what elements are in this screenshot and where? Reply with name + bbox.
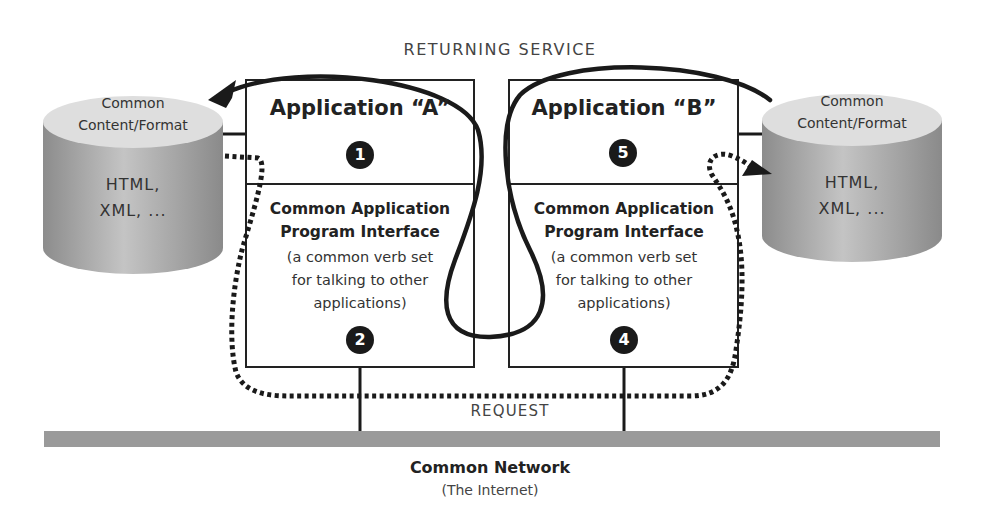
left-store-body-line2: XML, ...: [43, 198, 223, 224]
left-store-top-line2: Content/Format: [43, 114, 223, 136]
app-a-api-desc-line1: (a common verb set: [246, 246, 474, 269]
app-a-title: Application “A”: [246, 96, 474, 120]
app-b-api-desc-line2: for talking to other: [510, 269, 738, 292]
app-b-api-title-line1: Common Application: [510, 198, 738, 221]
app-b-title: Application “B”: [510, 96, 738, 120]
app-b-api-title-line2: Program Interface: [510, 221, 738, 244]
app-a-api-title-line2: Program Interface: [246, 221, 474, 244]
right-store-top-line2: Content/Format: [762, 112, 942, 134]
app-b-api-desc-line3: applications): [510, 292, 738, 315]
right-store-body-line2: XML, ...: [762, 196, 942, 222]
left-store-top-line1: Common: [43, 92, 223, 114]
app-a-api-title-line1: Common Application: [246, 198, 474, 221]
network-bar: [44, 431, 940, 447]
app-a-api-step-badge: 2: [346, 326, 374, 354]
app-a-step-badge: 1: [346, 141, 374, 169]
request-label: REQUEST: [400, 402, 620, 420]
returning-service-label: RETURNING SERVICE: [340, 40, 660, 59]
app-a-api-desc-line3: applications): [246, 292, 474, 315]
network-title: Common Network: [330, 458, 650, 477]
right-store-top-line1: Common: [762, 90, 942, 112]
right-store-body-line1: HTML,: [762, 170, 942, 196]
left-store-body-line1: HTML,: [43, 172, 223, 198]
app-b-step-badge: 5: [609, 139, 637, 167]
app-b-api-step-badge: 4: [610, 326, 638, 354]
network-subtitle: (The Internet): [330, 482, 650, 498]
diagram-graphics: [0, 0, 982, 509]
app-a-api-desc-line2: for talking to other: [246, 269, 474, 292]
app-b-api-desc-line1: (a common verb set: [510, 246, 738, 269]
